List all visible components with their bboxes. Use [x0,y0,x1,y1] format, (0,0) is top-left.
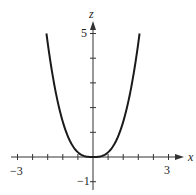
z-axis-arrow-icon [90,21,96,30]
x-min-label: −3 [10,164,23,178]
z-bottom-label: −1 [77,174,90,188]
graph: x z −3 3 5 −1 [0,0,196,195]
x-axis-label: x [187,150,194,164]
z-axis-label: z [88,7,94,21]
z-axis [90,21,96,190]
z-top-label: 5 [81,26,87,40]
x-axis-arrow-icon [175,154,184,160]
x-max-label: 3 [164,163,170,177]
